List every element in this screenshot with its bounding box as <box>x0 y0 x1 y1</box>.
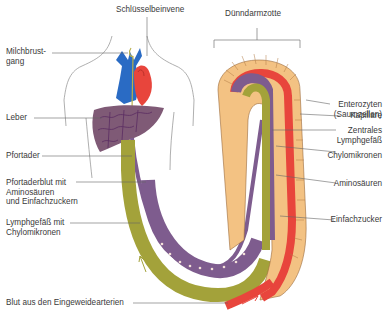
heart <box>116 48 152 106</box>
label-chylomikronen: Chylomikronen <box>327 151 382 161</box>
label-schluesselbeinvene: Schlüsselbeinvene <box>116 5 184 15</box>
label-einfachzucker: Einfachzucker <box>331 215 382 225</box>
label-pfortaderblut: Pfortaderblut mit Aminosäuren und Einfac… <box>6 178 78 207</box>
label-aminosaeuren: Aminosäuren <box>334 179 382 189</box>
label-lymphgefaess: Lymphgefäß mit Chylomikronen <box>6 218 64 237</box>
label-zentrales-lymphgefaess: Zentrales Lymphgefäß <box>337 126 382 145</box>
label-milchbrustgang: Milchbrust- gang <box>6 47 46 66</box>
label-duenndarmzotte: Dünndarmzotte <box>225 9 281 19</box>
label-blut-eingeweidearterien: Blut aus den Eingeweidearterien <box>6 298 124 308</box>
label-pfortader: Pfortader <box>6 151 40 161</box>
label-kapillare: Kapillare <box>350 111 382 121</box>
label-leber: Leber <box>6 113 27 123</box>
villus-bracket <box>214 28 300 48</box>
